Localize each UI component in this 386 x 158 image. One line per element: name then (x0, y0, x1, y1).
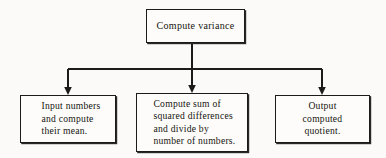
arrowhead-to-compute (188, 85, 196, 93)
arrowhead-to-output (318, 87, 326, 95)
node-compute-variance-label: Compute variance (154, 20, 238, 32)
node-output-quotient-label: Output computed quotient. (300, 100, 346, 137)
node-compute-variance[interactable]: Compute variance (146, 9, 245, 43)
flowchart-diagram: Compute variance Input numbers and compu… (0, 0, 386, 158)
node-compute-sum[interactable]: Compute sum of squared differences and d… (136, 93, 248, 152)
node-compute-sum-label: Compute sum of squared differences and d… (145, 98, 238, 148)
node-output-quotient[interactable]: Output computed quotient. (275, 95, 370, 143)
node-input-numbers[interactable]: Input numbers and compute their mean. (20, 95, 116, 143)
arrowhead-to-input (64, 87, 72, 95)
node-input-numbers-label: Input numbers and compute their mean. (33, 100, 104, 137)
